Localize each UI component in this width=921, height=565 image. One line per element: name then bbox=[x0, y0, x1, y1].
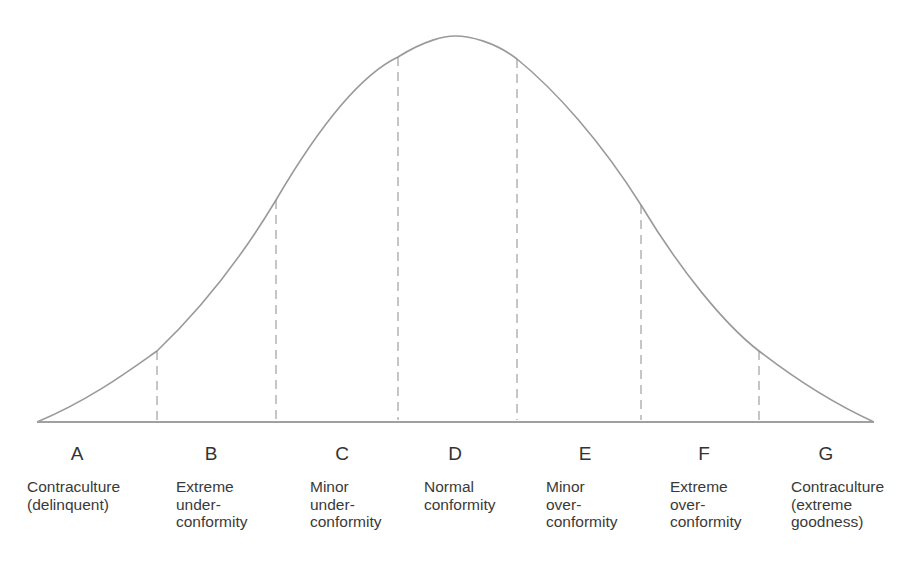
desc-line: (delinquent) bbox=[27, 496, 120, 514]
desc-line: Minor bbox=[546, 478, 618, 496]
region-desc-b: Extreme under- conformity bbox=[176, 478, 248, 531]
region-letter-d: D bbox=[448, 443, 462, 465]
desc-line: Extreme bbox=[176, 478, 248, 496]
desc-line: Contraculture bbox=[27, 478, 120, 496]
region-desc-e: Minor over- conformity bbox=[546, 478, 618, 531]
desc-line: conformity bbox=[546, 513, 618, 531]
desc-line: conformity bbox=[176, 513, 248, 531]
desc-line: Contraculture bbox=[791, 478, 884, 496]
desc-line: Minor bbox=[310, 478, 382, 496]
desc-line: over- bbox=[670, 496, 742, 514]
desc-line: over- bbox=[546, 496, 618, 514]
region-letter-c: C bbox=[335, 443, 349, 465]
desc-line: conformity bbox=[310, 513, 382, 531]
region-letter-e: E bbox=[579, 443, 592, 465]
region-desc-g: Contraculture (extreme goodness) bbox=[791, 478, 884, 531]
region-letter-b: B bbox=[205, 443, 218, 465]
desc-line: (extreme bbox=[791, 496, 884, 514]
bell-curve bbox=[37, 36, 874, 422]
region-letter-a: A bbox=[71, 443, 84, 465]
region-letter-f: F bbox=[698, 443, 710, 465]
region-desc-a: Contraculture (delinquent) bbox=[27, 478, 120, 513]
region-desc-f: Extreme over- conformity bbox=[670, 478, 742, 531]
region-desc-c: Minor under- conformity bbox=[310, 478, 382, 531]
desc-line: under- bbox=[310, 496, 382, 514]
region-dividers bbox=[157, 57, 759, 420]
desc-line: conformity bbox=[670, 513, 742, 531]
desc-line: goodness) bbox=[791, 513, 884, 531]
desc-line: Extreme bbox=[670, 478, 742, 496]
region-letter-g: G bbox=[819, 443, 834, 465]
desc-line: Normal bbox=[424, 478, 496, 496]
desc-line: under- bbox=[176, 496, 248, 514]
desc-line: conformity bbox=[424, 496, 496, 514]
region-desc-d: Normal conformity bbox=[424, 478, 496, 513]
